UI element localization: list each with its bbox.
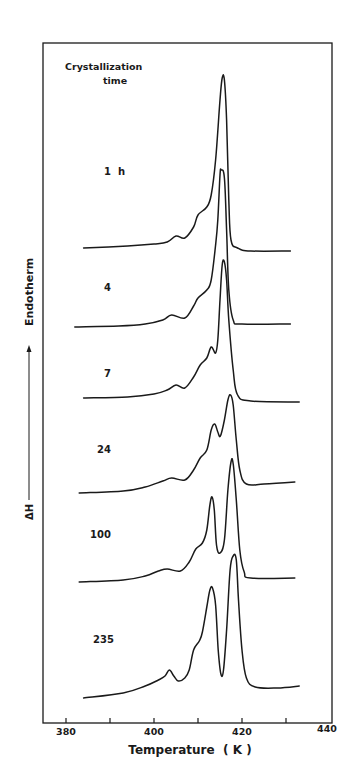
x-axis-title: Temperature ( K ) <box>128 743 251 757</box>
curve-label-1h: 1 h <box>104 166 125 177</box>
curve-label-24: 24 <box>97 444 111 455</box>
y-axis-arrow-head-icon <box>27 345 32 352</box>
dsc-chart: Crystallization time 1 h 4 7 24 100 235 … <box>0 0 361 778</box>
y-axis-symbol: ΔH <box>24 504 35 520</box>
x-tick-label-380: 380 <box>56 726 76 737</box>
y-axis-label: ΔH Endotherm <box>23 258 36 520</box>
curve-label-235: 235 <box>93 634 114 645</box>
dsc-curve-24 <box>79 395 295 493</box>
curve-label-7: 7 <box>104 368 111 379</box>
dsc-curve-4 <box>75 169 291 327</box>
dsc-curve-100 <box>79 459 295 582</box>
x-axis-ticks <box>66 718 286 723</box>
y-axis-word: Endotherm <box>23 258 36 326</box>
dsc-curve-235 <box>84 554 300 698</box>
x-tick-label-440: 440 <box>317 723 337 734</box>
x-tick-label-420: 420 <box>232 726 252 737</box>
curve-label-4: 4 <box>104 282 111 293</box>
dsc-curve-1h <box>84 75 291 251</box>
dsc-curve-7 <box>84 260 300 402</box>
legend-title-line2: time <box>103 75 127 86</box>
curve-label-100: 100 <box>90 529 111 540</box>
plot-frame <box>43 43 332 723</box>
legend-title-line1: Crystallization <box>65 61 142 72</box>
x-tick-label-400: 400 <box>144 726 164 737</box>
